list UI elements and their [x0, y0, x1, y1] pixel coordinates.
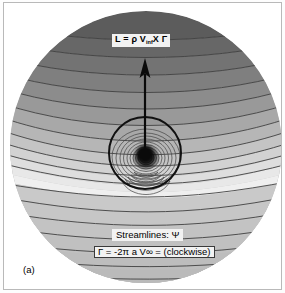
lift-equation-label: L = ρ VinfX Γ	[112, 34, 170, 47]
lift-vector-arrow	[139, 58, 151, 158]
figure-panel: L = ρ VinfX Γ Streamlines: Ψ Γ = -2π a V…	[0, 0, 285, 293]
lift-equation-prefix: L = ρ V	[115, 34, 146, 44]
lift-equation-suffix: X Γ	[153, 34, 168, 44]
streamlines-label: Streamlines: Ψ	[112, 229, 183, 241]
circulation-label: Γ = -2π a V∞ = (clockwise)	[94, 246, 215, 258]
lift-equation-subscript: inf	[146, 39, 153, 45]
figure-frame: L = ρ VinfX Γ Streamlines: Ψ Γ = -2π a V…	[3, 2, 282, 290]
panel-label: (a)	[23, 265, 35, 275]
